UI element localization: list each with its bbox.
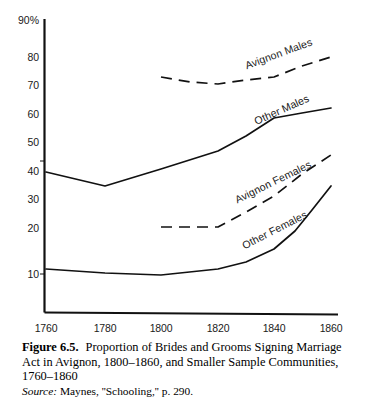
source-keyword: Source: bbox=[22, 385, 57, 397]
series-label-other-females: Other Females bbox=[240, 208, 309, 251]
x-tick-label-1760: 1760 bbox=[35, 322, 58, 334]
series-line-other-females bbox=[46, 186, 331, 275]
y-tick-label-70: 70 bbox=[28, 79, 40, 91]
y-tick-label-80: 80 bbox=[28, 51, 40, 63]
y-tick-label-10: 10 bbox=[28, 268, 40, 280]
figure-caption-block: Figure 6.5.Proportion of Brides and Groo… bbox=[22, 340, 352, 398]
x-axis-line bbox=[45, 313, 339, 315]
x-tick-label-1840: 1840 bbox=[263, 322, 286, 334]
y-tick-label-40: 40 bbox=[28, 165, 40, 177]
figure-container: 90% 80 70 60 50 40 30 20 10 1760 1780 18… bbox=[0, 0, 370, 412]
x-tick-label-1800: 1800 bbox=[150, 322, 173, 334]
y-tick-label-90: 90% bbox=[18, 14, 39, 26]
source-citation: Maynes, ''Schooling,'' p. 290. bbox=[60, 385, 193, 397]
y-tick-label-50: 50 bbox=[28, 136, 40, 148]
figure-source-line: Source: Maynes, ''Schooling,'' p. 290. bbox=[22, 385, 352, 398]
y-tick-label-60: 60 bbox=[28, 108, 40, 120]
figure-caption: Figure 6.5.Proportion of Brides and Groo… bbox=[22, 340, 352, 384]
series-label-avignon-females: Avignon Females bbox=[233, 158, 313, 205]
x-tick-label-1820: 1820 bbox=[207, 322, 230, 334]
y-tick-label-20: 20 bbox=[28, 222, 40, 234]
x-tick-label-1860: 1860 bbox=[320, 322, 343, 334]
chart-plot-area: 90% 80 70 60 50 40 30 20 10 1760 1780 18… bbox=[0, 0, 370, 340]
y-tick-label-30: 30 bbox=[28, 193, 40, 205]
series-label-other-males: Other Males bbox=[252, 92, 311, 127]
line-chart-svg: 90% 80 70 60 50 40 30 20 10 1760 1780 18… bbox=[0, 0, 370, 340]
figure-number-label: Figure 6.5. bbox=[22, 340, 79, 354]
x-tick-label-1780: 1780 bbox=[94, 322, 117, 334]
